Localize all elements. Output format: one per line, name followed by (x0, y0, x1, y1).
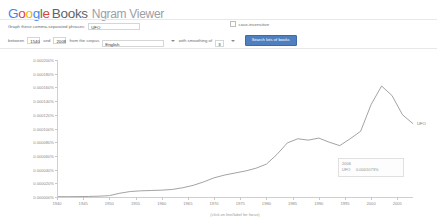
y-axis-tick-label: 0.000200% (33, 58, 54, 63)
x-axis-tick (136, 197, 137, 200)
x-axis-tick (240, 197, 241, 200)
smoothing-label: with smoothing of (179, 38, 212, 43)
x-axis-tick-label: 1955 (131, 201, 140, 206)
y-axis-tick (55, 183, 58, 184)
and-label: and (43, 38, 50, 43)
chart-tooltip: 2006 UFO 0.0001073% (338, 158, 404, 177)
ngram-viewer-page: GoogleBooksNgram Viewer Graph these comm… (0, 0, 437, 219)
y-axis-tick-label: 0.000100% (33, 126, 54, 131)
case-insensitive-control[interactable]: case-insensitive (230, 21, 272, 27)
y-axis-tick (55, 129, 58, 130)
x-axis-tick (319, 197, 320, 200)
query-form: Graph these comma-separated phrases: UFO… (8, 21, 429, 49)
y-axis-tick (55, 101, 58, 102)
corpus-select-value: English (102, 40, 164, 48)
x-axis-tick-label: 1940 (52, 201, 61, 206)
x-axis-line (57, 197, 413, 198)
options-row: between 1540 and 2008 from the corpus En… (8, 35, 429, 46)
header-divider (0, 19, 437, 20)
y-axis-tick (55, 87, 58, 88)
x-axis-tick (109, 197, 110, 200)
tooltip-series-name: UFO (342, 167, 356, 172)
x-axis-tick (188, 197, 189, 200)
y-axis-tick (55, 142, 58, 143)
x-axis-tick (214, 197, 215, 200)
phrases-row: Graph these comma-separated phrases: UFO… (8, 21, 429, 32)
start-year-input[interactable]: 1540 (27, 37, 40, 45)
y-axis-tick (55, 156, 58, 157)
between-label: between (8, 38, 24, 43)
corpus-select[interactable]: English (102, 32, 174, 50)
chevron-down-icon-smoothing (231, 40, 235, 42)
tooltip-series-value: 0.0001073% (356, 167, 378, 172)
x-axis-tick-label: 2000 (367, 201, 376, 206)
x-axis-tick-label: 1995 (340, 201, 349, 206)
chevron-down-icon (171, 40, 175, 42)
y-axis-tick (55, 115, 58, 116)
case-insensitive-label: case-insensitive (239, 22, 270, 27)
x-axis-tick-label: 1990 (314, 201, 323, 206)
y-axis-tick-label: 0.000120% (33, 112, 54, 117)
x-axis-tick (371, 197, 372, 200)
y-axis-tick-label: 0.000160% (33, 85, 54, 90)
y-axis-tick (55, 170, 58, 171)
x-axis-tick-label: 1980 (262, 201, 271, 206)
series-inline-label[interactable]: UFO (417, 121, 426, 126)
y-axis-tick-label: 0.000000% (33, 195, 54, 200)
form-divider (0, 48, 437, 49)
y-axis-tick-label: 0.000020% (33, 181, 54, 186)
x-axis-tick-label: 1950 (105, 201, 114, 206)
smoothing-select-value: 3 (215, 40, 224, 48)
corpus-label: from the corpus (69, 38, 99, 43)
y-axis-tick-label: 0.000080% (33, 140, 54, 145)
y-axis-tick-label: 0.000060% (33, 153, 54, 158)
x-axis-tick-label: 1970 (209, 201, 218, 206)
phrases-input[interactable]: UFO (88, 23, 140, 31)
chart-caption: (click on line/label for focus) (57, 212, 413, 217)
case-insensitive-checkbox[interactable] (230, 21, 236, 27)
x-axis-tick (345, 197, 346, 200)
x-axis-tick-label: 2005 (393, 201, 402, 206)
y-axis-tick (55, 60, 58, 61)
y-axis-tick-label: 0.000180% (33, 71, 54, 76)
y-axis-tick-label: 0.000140% (33, 99, 54, 104)
x-axis-tick-label: 1965 (183, 201, 192, 206)
x-axis-tick (266, 197, 267, 200)
x-axis-tick (83, 197, 84, 200)
smoothing-select[interactable]: 3 (215, 32, 234, 50)
y-axis-line (57, 60, 58, 197)
x-axis-tick-label: 1975 (236, 201, 245, 206)
search-button[interactable]: Search lots of books (245, 35, 297, 46)
x-axis-tick (397, 197, 398, 200)
y-axis-tick (55, 74, 58, 75)
phrases-label: Graph these comma-separated phrases: (8, 24, 85, 29)
end-year-input[interactable]: 2008 (53, 37, 66, 45)
y-axis-tick-label: 0.000040% (33, 167, 54, 172)
x-axis-tick-label: 1960 (157, 201, 166, 206)
x-axis-tick (162, 197, 163, 200)
x-axis-tick-label: 1985 (288, 201, 297, 206)
ngram-chart: 0.000200%0.000180%0.000160%0.000140%0.00… (0, 52, 437, 219)
tooltip-year: 2006 (342, 161, 400, 166)
tooltip-series-row: UFO 0.0001073% (342, 167, 400, 172)
x-axis-tick (293, 197, 294, 200)
x-axis-tick-label: 1945 (79, 201, 88, 206)
x-axis-tick (57, 197, 58, 200)
